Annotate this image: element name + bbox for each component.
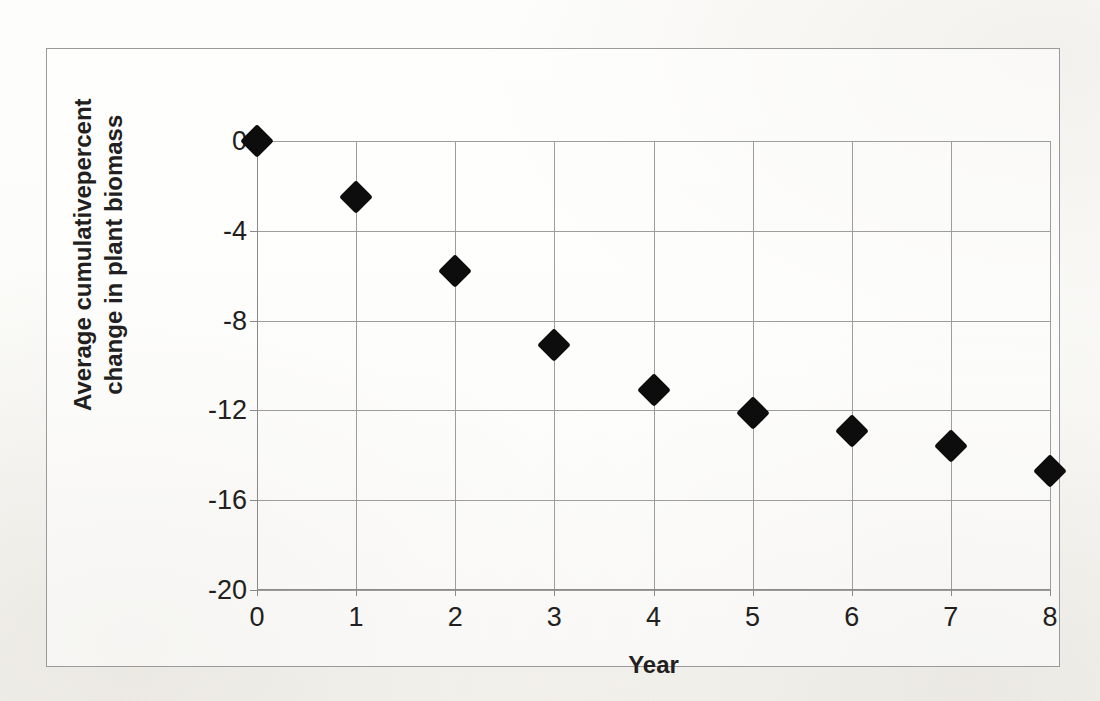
data-point-marker bbox=[736, 396, 770, 430]
x-axis-tick-label: 5 bbox=[745, 602, 760, 633]
data-point-marker bbox=[835, 414, 869, 448]
gridline-vertical bbox=[951, 141, 952, 590]
chart-border-frame: 0-4-8-12-16-20 012345678 Year Average cu… bbox=[46, 48, 1060, 667]
x-axis-tick bbox=[951, 590, 952, 596]
data-point-marker bbox=[1033, 454, 1067, 488]
x-axis-tick-label: 2 bbox=[448, 602, 463, 633]
y-axis-tick bbox=[250, 231, 257, 232]
plot-area bbox=[257, 141, 1050, 590]
x-axis-tick bbox=[356, 590, 357, 596]
x-axis-tick-label: 1 bbox=[349, 602, 364, 633]
x-axis-tick-label: 8 bbox=[1042, 602, 1057, 633]
x-axis-tick-label: 0 bbox=[249, 602, 264, 633]
x-axis-line bbox=[257, 589, 1050, 590]
y-axis-tick bbox=[250, 321, 257, 322]
x-axis-tick bbox=[1050, 590, 1051, 596]
x-axis-tick-label: 4 bbox=[646, 602, 661, 633]
x-axis-tick-label: 3 bbox=[547, 602, 562, 633]
y-axis-title-line-2: change in plant biomass bbox=[99, 0, 130, 565]
x-axis-tick-label: 6 bbox=[844, 602, 859, 633]
y-axis-tick-label: -4 bbox=[223, 215, 247, 246]
x-axis-tick bbox=[654, 590, 655, 596]
y-axis-title: Average cumulativepercent change in plan… bbox=[68, 0, 129, 565]
y-axis-tick bbox=[250, 500, 257, 501]
data-point-marker bbox=[934, 429, 968, 463]
x-axis-title: Year bbox=[257, 651, 1050, 679]
gridline-vertical bbox=[852, 141, 853, 590]
y-axis-tick-label: -16 bbox=[208, 485, 247, 516]
gridline-vertical bbox=[753, 141, 754, 590]
y-axis-tick bbox=[250, 410, 257, 411]
data-point-marker bbox=[339, 180, 373, 214]
x-axis-tick bbox=[753, 590, 754, 596]
x-axis-tick bbox=[455, 590, 456, 596]
y-axis-tick-label: -12 bbox=[208, 395, 247, 426]
y-axis-tick-labels: 0-4-8-12-16-20 bbox=[187, 141, 247, 590]
x-axis-tick-label: 7 bbox=[943, 602, 958, 633]
gridline-vertical bbox=[455, 141, 456, 590]
gridline-vertical bbox=[554, 141, 555, 590]
gridline-vertical bbox=[1050, 141, 1051, 590]
chart-page: 0-4-8-12-16-20 012345678 Year Average cu… bbox=[0, 0, 1100, 701]
x-axis-tick bbox=[852, 590, 853, 596]
x-axis-tick bbox=[257, 590, 258, 596]
y-axis-tick-label: -20 bbox=[208, 575, 247, 606]
y-axis-tick-label: -8 bbox=[223, 305, 247, 336]
x-axis-tick-labels: 012345678 bbox=[257, 602, 1050, 642]
data-point-marker bbox=[637, 373, 671, 407]
gridline-vertical bbox=[654, 141, 655, 590]
y-axis-line bbox=[257, 141, 258, 590]
y-axis-tick bbox=[250, 590, 257, 591]
data-point-marker bbox=[438, 254, 472, 288]
data-point-marker bbox=[537, 328, 571, 362]
y-axis-title-line-1: Average cumulativepercent bbox=[68, 0, 99, 565]
x-axis-tick bbox=[554, 590, 555, 596]
